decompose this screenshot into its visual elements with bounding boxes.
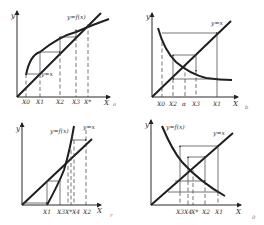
tick-label: X3 — [191, 100, 200, 107]
line-label: y=x — [210, 19, 223, 27]
line-label: y=x — [212, 129, 225, 137]
y-axis-label: y — [145, 13, 151, 21]
tick-label: X1 — [42, 208, 51, 215]
tick-label: X1 — [214, 208, 223, 215]
tick-label: X2 — [168, 100, 177, 107]
tick-label: X0 — [21, 98, 30, 105]
panel-c: y X y=f(x) y=x X1 X3 X* X4 X2 r — [15, 123, 113, 218]
tick-label: X0 — [156, 100, 165, 107]
identity-line — [22, 139, 92, 205]
identity-line — [152, 21, 231, 97]
identity-line — [17, 13, 101, 97]
panel-caption: д — [252, 214, 255, 220]
x-axis-label: X — [103, 99, 110, 107]
line-label: y=x — [40, 70, 53, 78]
tick-label: X2 — [82, 208, 91, 215]
tick-label: X2 — [201, 208, 210, 215]
tick-label: X1 — [35, 98, 44, 105]
y-axis-label: y — [15, 125, 21, 133]
curve-label: y=f(x) — [165, 123, 185, 131]
tick-label: X* — [83, 98, 91, 105]
x-axis-label: X — [232, 100, 239, 108]
panel-caption: a — [113, 101, 116, 107]
x-axis-label: X — [96, 207, 103, 215]
tick-label: α — [182, 100, 186, 107]
panel-d: y X y=f(x) y=x X3 X4 X* X2 X1 д — [144, 120, 255, 220]
tick-label: X2 — [55, 98, 64, 105]
x-axis-label: X — [235, 208, 242, 216]
function-curve — [158, 28, 232, 80]
y-axis-label: y — [10, 12, 16, 20]
fixed-point-iteration-figure: y X y=f(x) y=x X0 X1 X2 X3 X* a y X y=x — [0, 0, 264, 225]
function-curve — [162, 126, 225, 196]
line-label: y=x — [82, 123, 95, 131]
y-axis-label: y — [144, 121, 150, 129]
curve-label: y=f(x) — [49, 127, 69, 135]
tick-label: X4 — [71, 208, 80, 215]
tick-label: X3 — [56, 208, 65, 215]
panel-a: y X y=f(x) y=x X0 X1 X2 X3 X* a — [10, 11, 116, 107]
panel-caption: r — [110, 212, 113, 218]
tick-label: X3 — [71, 98, 80, 105]
tick-label: X1 — [212, 100, 221, 107]
panel-b: y X y=x X0 X2 α X3 X1 b — [145, 13, 248, 110]
function-curve — [47, 126, 74, 205]
curve-label: y=f(x) — [66, 13, 86, 21]
tick-label: X3 — [175, 208, 184, 215]
panel-caption: b — [245, 104, 248, 110]
tick-label: X* — [190, 208, 198, 215]
